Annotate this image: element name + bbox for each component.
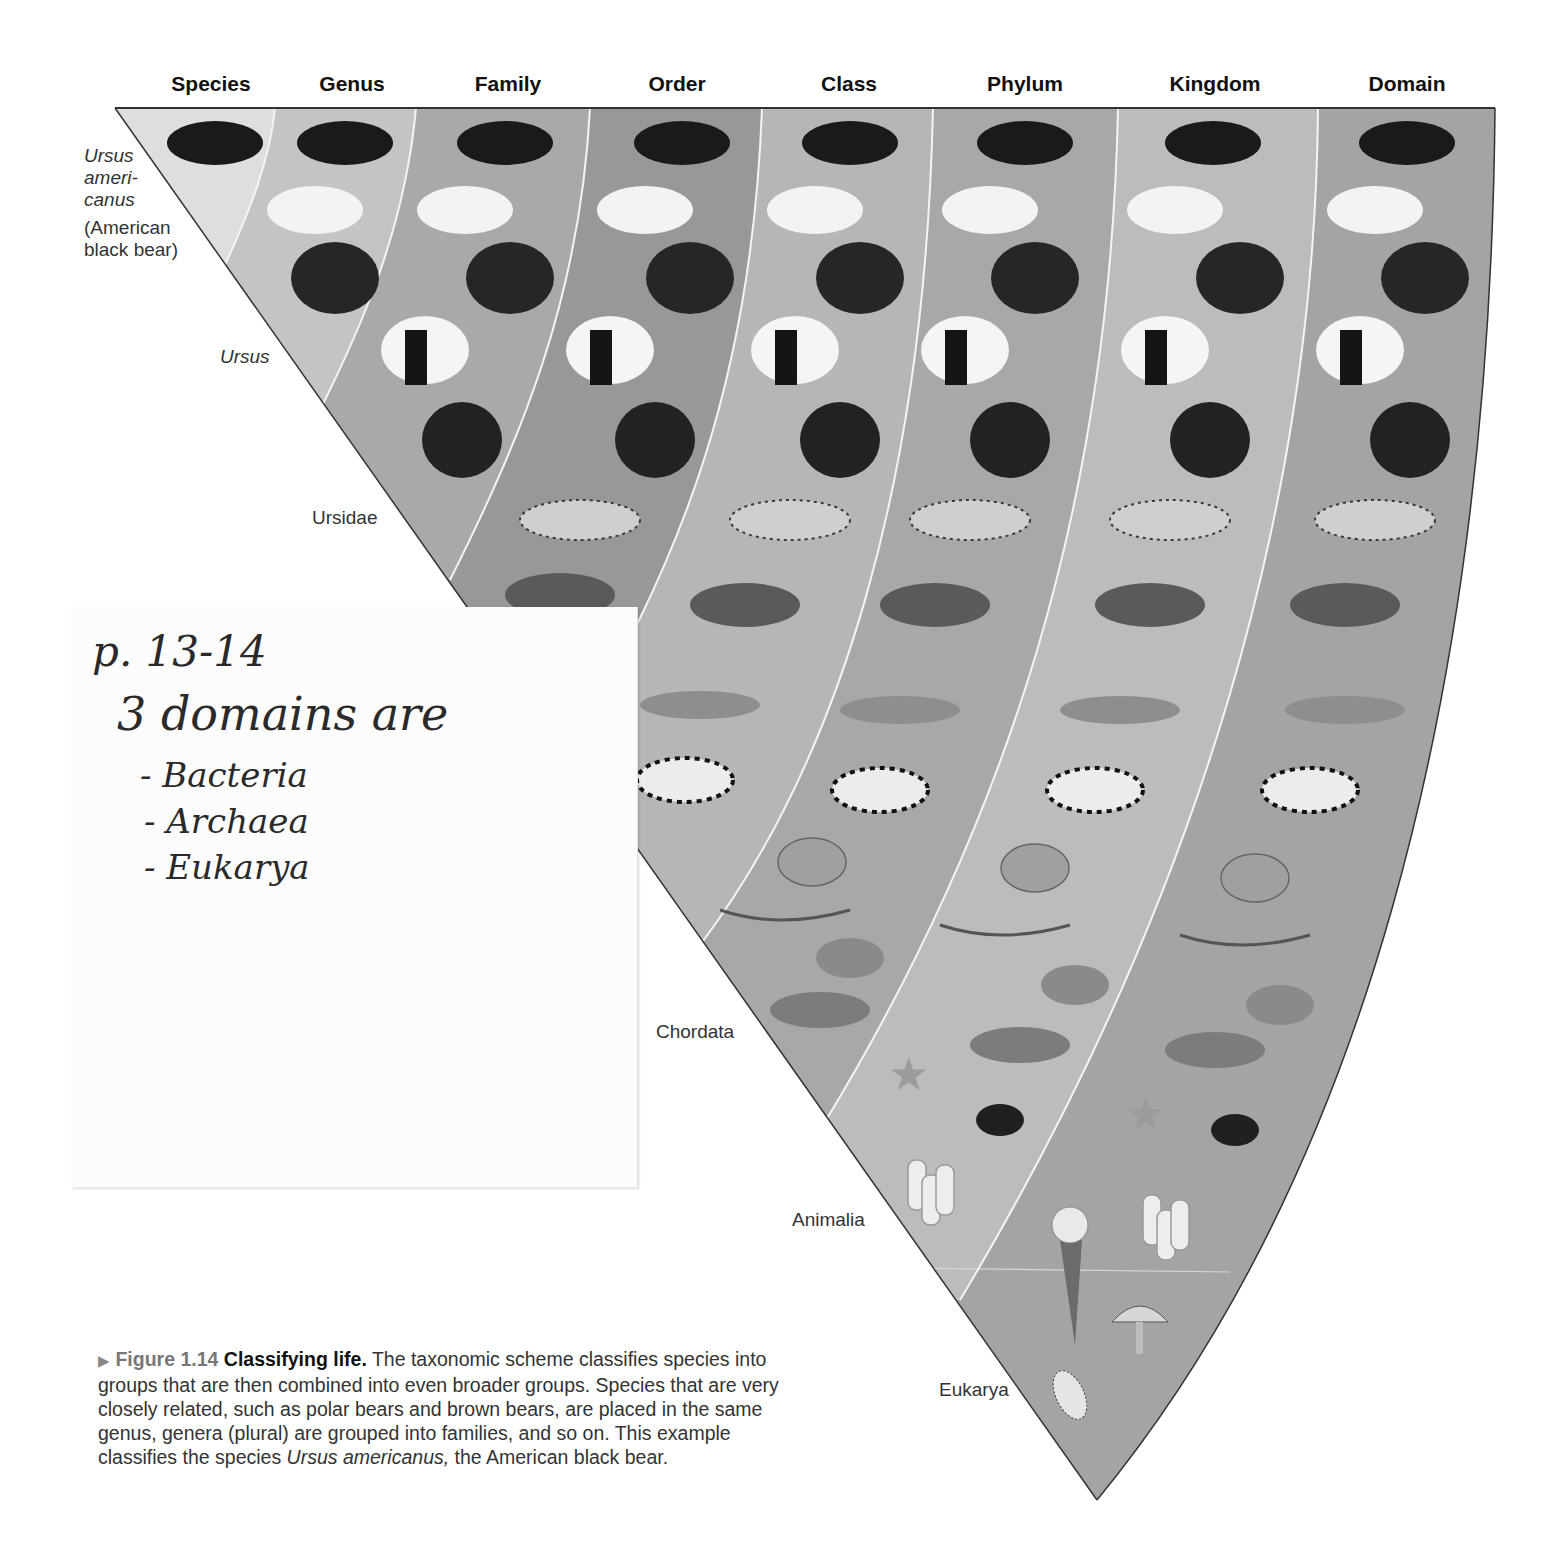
figure-number: Figure 1.14 (115, 1348, 218, 1370)
caption-species-name: Ursus americanus, (287, 1446, 450, 1468)
note-heading: 3 domains are (117, 687, 448, 741)
label-animalia: Animalia (792, 1209, 865, 1231)
header-class: Class (821, 72, 877, 96)
label-chordata: Chordata (656, 1021, 734, 1043)
header-kingdom: Kingdom (1170, 72, 1261, 96)
note-item-bacteria: - Bacteria (140, 755, 308, 795)
label-ursidae: Ursidae (312, 507, 377, 529)
sticky-note: p. 13-14 3 domains are - Bacteria - Arch… (72, 607, 638, 1188)
figure-title: Classifying life. (224, 1348, 367, 1370)
header-phylum: Phylum (987, 72, 1063, 96)
note-item-archaea: - Archaea (144, 801, 309, 841)
svg-text:★: ★ (888, 1047, 929, 1101)
label-eukarya: Eukarya (939, 1379, 1009, 1401)
header-domain: Domain (1368, 72, 1445, 96)
label-ursus: Ursus (220, 346, 270, 368)
svg-text:★: ★ (1125, 1087, 1166, 1141)
caption-arrow-icon: ▶ (98, 1352, 110, 1369)
textbook-page: ★★ (0, 0, 1565, 1556)
header-species: Species (171, 72, 250, 96)
note-item-eukarya: - Eukarya (144, 847, 310, 887)
label-american-black-bear: (American black bear) (84, 217, 178, 261)
header-family: Family (475, 72, 542, 96)
header-genus: Genus (319, 72, 384, 96)
label-ursus-americanus: Ursus ameri- canus (84, 145, 138, 211)
figure-caption: ▶ Figure 1.14 Classifying life. The taxo… (98, 1347, 788, 1469)
caption-body-end: the American black bear. (455, 1446, 669, 1468)
note-page-ref: p. 13-14 (92, 627, 267, 676)
header-order: Order (648, 72, 705, 96)
